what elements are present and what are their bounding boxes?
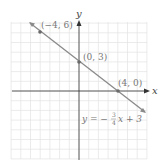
x-axis-label: x	[152, 85, 158, 96]
eq-numerator: 3	[112, 111, 116, 118]
point-neg4-6	[38, 30, 42, 34]
point-label-0-3: (0, 3)	[83, 52, 107, 62]
point-label-4-0: (4, 0)	[118, 78, 142, 88]
equation-label: y = − 3 4 x + 3	[81, 111, 142, 126]
point-label-neg4-6: (−4, 6)	[41, 20, 73, 30]
y-axis-label: y	[75, 8, 82, 19]
eq-denominator: 4	[112, 119, 116, 126]
eq-suffix: x + 3	[118, 114, 142, 124]
point-0-3	[77, 60, 81, 64]
eq-prefix: y = −	[81, 114, 108, 124]
chart: x y (−4, 6) (0, 3) (4, 0) y = − 3 4 x + …	[0, 0, 162, 168]
point-4-0	[116, 89, 120, 93]
